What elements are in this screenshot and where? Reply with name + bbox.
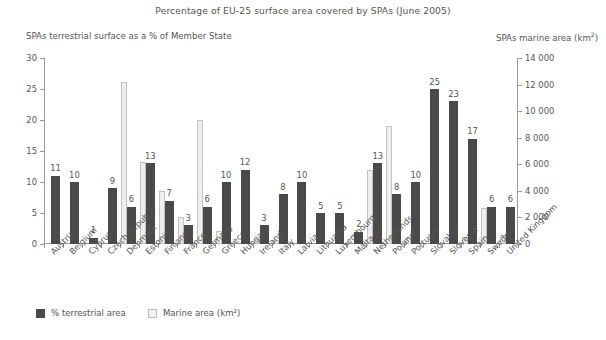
left-axis-tick-label: 5	[32, 209, 37, 217]
left-axis-tick	[40, 182, 44, 183]
right-axis-tick-label: 8 000	[525, 134, 549, 142]
bar-value-label: 8	[387, 183, 407, 191]
bar-value-label: 9	[102, 177, 122, 185]
bar-value-label: 6	[501, 195, 521, 203]
bar-value-label: 25	[425, 78, 445, 86]
right-axis-tick	[518, 164, 522, 165]
bar-value-label: 11	[45, 164, 65, 172]
legend-label: % terrestrial area	[51, 308, 126, 318]
left-axis-tick	[40, 151, 44, 152]
left-axis-tick-label: 30	[26, 54, 37, 62]
bar-value-label: 5	[311, 202, 331, 210]
right-axis-caption-tail: )	[595, 33, 598, 43]
legend-item: Marine area (km²)	[148, 308, 240, 318]
bar-value-label: 6	[197, 195, 217, 203]
bar-terrestrial-area	[51, 176, 60, 244]
bar-value-label: 7	[159, 189, 179, 197]
right-axis-tick	[518, 58, 522, 59]
right-axis-tick-label: 14 000	[525, 54, 554, 62]
chart-title: Percentage of EU-25 surface area covered…	[0, 5, 606, 16]
bar-value-label: 12	[235, 158, 255, 166]
left-axis-tick	[40, 120, 44, 121]
right-axis-tick-label: 4 000	[525, 187, 549, 195]
category-axis-tick	[44, 244, 45, 248]
left-axis-tick	[40, 89, 44, 90]
left-axis-line	[44, 58, 45, 244]
chart-legend: % terrestrial areaMarine area (km²)	[36, 308, 240, 318]
right-axis-tick	[518, 217, 522, 218]
left-axis-tick-label: 15	[26, 147, 37, 155]
right-axis-caption: SPAs marine area (km2)	[496, 31, 598, 43]
legend-swatch-marine	[148, 309, 157, 318]
right-axis-tick	[518, 111, 522, 112]
left-axis-tick-label: 10	[26, 178, 37, 186]
right-axis-tick	[518, 191, 522, 192]
bar-value-label: 6	[482, 195, 502, 203]
bar-value-label: 17	[463, 127, 483, 135]
bar-value-label: 5	[330, 202, 350, 210]
bar-value-label: 10	[292, 171, 312, 179]
plot-area: 051015202530 02 0004 0006 0008 00010 000…	[44, 58, 518, 244]
legend-label: Marine area (km²)	[163, 308, 240, 318]
left-axis-tick	[40, 58, 44, 59]
bar-value-label: 10	[64, 171, 84, 179]
left-axis-caption: SPAs terrestrial surface as a % of Membe…	[26, 31, 232, 41]
right-axis-caption-text: SPAs marine area (km	[496, 33, 591, 43]
right-axis-tick-label: 12 000	[525, 81, 554, 89]
bar-value-label: 23	[444, 90, 464, 98]
left-axis-tick-label: 0	[32, 240, 37, 248]
left-axis-tick-label: 25	[26, 85, 37, 93]
bar-value-label: 13	[368, 152, 388, 160]
bar-terrestrial-area	[297, 182, 306, 244]
right-axis-tick	[518, 138, 522, 139]
right-axis-tick-label: 6 000	[525, 160, 549, 168]
bar-value-label: 3	[178, 214, 198, 222]
bar-value-label: 8	[273, 183, 293, 191]
bar-value-label: 10	[406, 171, 426, 179]
bar-value-label: 13	[140, 152, 160, 160]
bar-value-label: 10	[216, 171, 236, 179]
bar-terrestrial-area	[373, 163, 382, 244]
bar-value-label: 6	[121, 195, 141, 203]
right-axis-line	[517, 58, 518, 244]
right-axis-tick	[518, 85, 522, 86]
bar-value-label: 3	[254, 214, 274, 222]
left-axis-tick	[40, 213, 44, 214]
legend-swatch-terrestrial	[36, 309, 45, 318]
chart-figure: Percentage of EU-25 surface area covered…	[0, 0, 606, 340]
legend-item: % terrestrial area	[36, 308, 126, 318]
bar-terrestrial-area	[449, 101, 458, 244]
bar-terrestrial-area	[430, 89, 439, 244]
left-axis-tick-label: 20	[26, 116, 37, 124]
right-axis-tick-label: 10 000	[525, 107, 554, 115]
